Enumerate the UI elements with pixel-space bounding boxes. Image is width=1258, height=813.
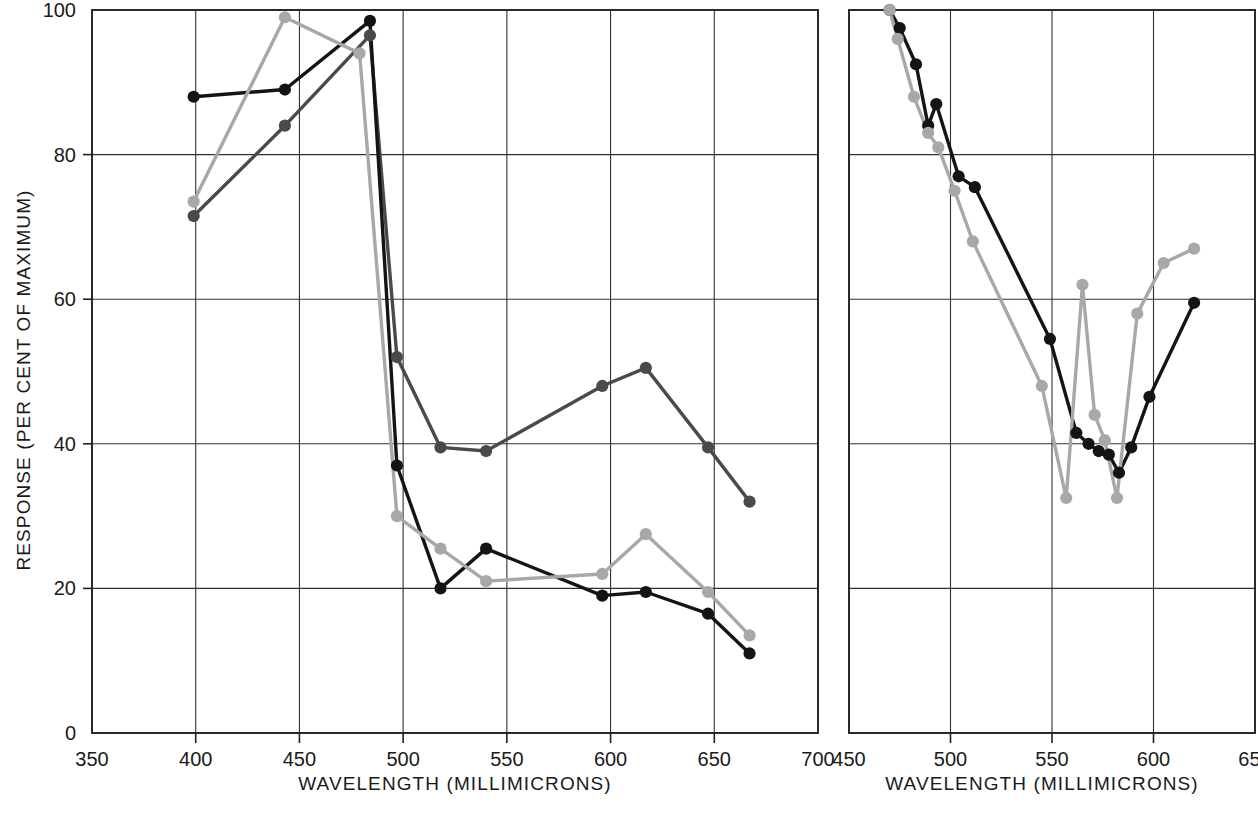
- data-point-series-light-gray: [932, 141, 944, 153]
- series-line-series-light-gray: [194, 17, 750, 635]
- data-point-series-light-gray: [480, 575, 492, 587]
- data-point-series-dark-gray: [391, 351, 403, 363]
- x-tick-label: 550: [490, 748, 523, 770]
- x-tick-label: 450: [283, 748, 316, 770]
- data-point-series-light-gray: [743, 629, 755, 641]
- data-point-series-light-gray: [892, 33, 904, 45]
- plot-frame-border: [92, 10, 818, 733]
- data-point-series-black: [364, 15, 376, 27]
- data-point-series-light-gray: [1099, 434, 1111, 446]
- chart-panel-left: 350400450500550600650700 020406080100 WA…: [0, 0, 830, 813]
- right-tick-marks: [951, 733, 1154, 743]
- data-point-series-black: [910, 58, 922, 70]
- right-x-tick-labels: 450500550600650: [832, 748, 1258, 770]
- data-point-series-light-gray: [1036, 380, 1048, 392]
- data-point-series-black: [743, 647, 755, 659]
- data-point-series-black: [640, 586, 652, 598]
- data-point-series-light-gray: [1060, 492, 1072, 504]
- data-point-series-black: [1125, 441, 1137, 453]
- data-point-series-black: [1082, 438, 1094, 450]
- data-point-series-black: [1044, 333, 1056, 345]
- series-line-series-black: [890, 10, 1195, 473]
- series-line-series-black: [194, 21, 750, 654]
- data-point-series-light-gray: [922, 127, 934, 139]
- left-tick-marks: [83, 155, 714, 743]
- y-tick-label: 40: [54, 433, 76, 455]
- x-tick-label: 400: [179, 748, 212, 770]
- left-y-axis-title: RESPONSE (PER CENT OF MAXIMUM): [13, 189, 34, 570]
- data-point-series-light-gray: [279, 11, 291, 23]
- data-point-series-dark-gray: [596, 380, 608, 392]
- x-tick-label: 450: [832, 748, 865, 770]
- data-point-series-light-gray: [948, 185, 960, 197]
- data-point-series-light-gray: [188, 196, 200, 208]
- left-x-axis-title: WAVELENGTH (MILLIMICRONS): [298, 773, 612, 794]
- left-gridlines: [92, 10, 818, 733]
- data-point-series-black: [1143, 391, 1155, 403]
- x-tick-label: 650: [1238, 748, 1258, 770]
- data-point-series-black: [480, 543, 492, 555]
- left-plot-frame: [92, 10, 818, 733]
- data-point-series-black: [969, 181, 981, 193]
- chart-panel-right: 450500550600650 WAVELENGTH (MILLIMICRONS…: [830, 0, 1258, 813]
- data-point-series-dark-gray: [640, 362, 652, 374]
- data-point-series-light-gray: [1158, 257, 1170, 269]
- data-point-series-black: [596, 590, 608, 602]
- data-point-series-light-gray: [1111, 492, 1123, 504]
- right-gridlines: [849, 10, 1255, 733]
- data-point-series-black: [1103, 449, 1115, 461]
- data-point-series-dark-gray: [364, 29, 376, 41]
- data-point-series-light-gray: [702, 586, 714, 598]
- y-tick-label: 0: [65, 722, 76, 744]
- data-point-series-light-gray: [884, 4, 896, 16]
- data-point-series-black: [1188, 297, 1200, 309]
- data-point-series-light-gray: [434, 543, 446, 555]
- data-point-series-black: [434, 582, 446, 594]
- x-tick-label: 550: [1035, 748, 1068, 770]
- data-point-series-light-gray: [967, 235, 979, 247]
- data-point-series-dark-gray: [702, 441, 714, 453]
- data-point-series-black: [279, 83, 291, 95]
- x-tick-label: 600: [1137, 748, 1170, 770]
- right-chart-svg: 450500550600650 WAVELENGTH (MILLIMICRONS…: [830, 0, 1258, 813]
- data-point-series-dark-gray: [188, 210, 200, 222]
- data-point-series-black: [702, 608, 714, 620]
- right-data-series: [884, 4, 1201, 504]
- right-x-axis-title: WAVELENGTH (MILLIMICRONS): [885, 773, 1199, 794]
- data-point-series-black: [930, 98, 942, 110]
- x-tick-label: 500: [386, 748, 419, 770]
- x-tick-label: 600: [594, 748, 627, 770]
- data-point-series-light-gray: [1089, 409, 1101, 421]
- figure-root: 350400450500550600650700 020406080100 WA…: [0, 0, 1258, 813]
- left-data-series: [188, 11, 756, 659]
- y-tick-label: 20: [54, 577, 76, 599]
- left-chart-svg: 350400450500550600650700 020406080100 WA…: [0, 0, 830, 813]
- data-point-series-dark-gray: [434, 441, 446, 453]
- data-point-series-light-gray: [1131, 308, 1143, 320]
- data-point-series-light-gray: [1188, 242, 1200, 254]
- data-point-series-light-gray: [1076, 279, 1088, 291]
- data-point-series-black: [894, 22, 906, 34]
- left-y-tick-labels: 020406080100: [43, 0, 76, 744]
- series-line-series-dark-gray: [194, 35, 750, 501]
- left-x-tick-labels: 350400450500550600650700: [75, 748, 834, 770]
- data-point-series-dark-gray: [743, 496, 755, 508]
- x-tick-label: 500: [934, 748, 967, 770]
- series-line-series-light-gray: [890, 10, 1195, 498]
- data-point-series-black: [391, 459, 403, 471]
- data-point-series-light-gray: [596, 568, 608, 580]
- data-point-series-light-gray: [391, 510, 403, 522]
- data-point-series-dark-gray: [279, 120, 291, 132]
- y-tick-label: 60: [54, 288, 76, 310]
- data-point-series-light-gray: [353, 47, 365, 59]
- y-tick-label: 80: [54, 144, 76, 166]
- data-point-series-black: [1113, 467, 1125, 479]
- data-point-series-black: [1070, 427, 1082, 439]
- data-point-series-dark-gray: [480, 445, 492, 457]
- data-point-series-light-gray: [908, 91, 920, 103]
- x-tick-label: 350: [75, 748, 108, 770]
- x-tick-label: 650: [698, 748, 731, 770]
- y-tick-label: 100: [43, 0, 76, 21]
- data-point-series-black: [953, 170, 965, 182]
- data-point-series-black: [188, 91, 200, 103]
